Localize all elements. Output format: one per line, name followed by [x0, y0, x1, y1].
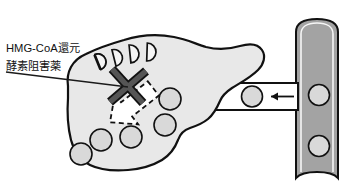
ldl-particle-liver-3 — [120, 126, 142, 148]
annotation-label-line2: 酵素阻害薬 — [6, 59, 61, 72]
ldl-particle-vessel-2 — [309, 136, 330, 157]
diagram-canvas: HMG-CoA還元 酵素阻害薬 — [0, 0, 354, 196]
ldl-particle-liver-5 — [70, 143, 92, 165]
ldl-particle-arrow-1 — [242, 86, 263, 107]
ldl-particle-vessel-1 — [309, 85, 330, 106]
blood-vessel — [296, 19, 338, 178]
ldl-particle-liver-1 — [159, 88, 181, 110]
annotation-label: HMG-CoA還元 酵素阻害薬 — [6, 42, 80, 72]
ldl-particle-liver-4 — [90, 129, 112, 151]
annotation-label-line1: HMG-CoA還元 — [6, 42, 80, 54]
diagram-svg: HMG-CoA還元 酵素阻害薬 — [0, 0, 354, 196]
ldl-particle-liver-2 — [154, 114, 176, 136]
